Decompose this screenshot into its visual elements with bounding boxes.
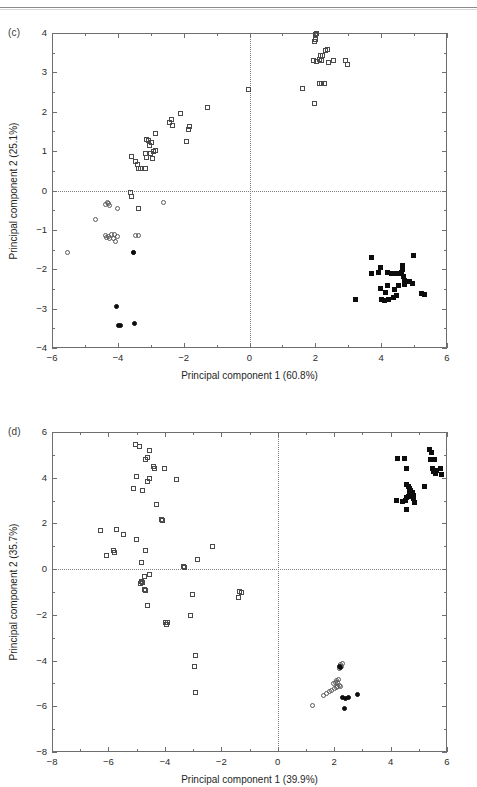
x-tick-major-top (381, 33, 382, 38)
y-tick-major-right (442, 661, 447, 662)
x-tick-major-top (108, 432, 109, 437)
y-tick-minor-right (444, 250, 447, 251)
y-tick-minor (52, 455, 55, 456)
data-point-open-square (236, 595, 241, 600)
data-point-open-square (129, 154, 134, 159)
data-point-open-square (193, 690, 198, 695)
y-tick-minor (52, 53, 55, 54)
data-point-filled-square (378, 265, 383, 270)
y-tick-major-right (442, 269, 447, 270)
y-tick-major-right (442, 33, 447, 34)
data-point-open-square (143, 457, 148, 462)
data-point-open-square (188, 613, 193, 618)
data-point-open-square (192, 664, 197, 669)
x-tick-major (250, 343, 251, 348)
x-tick-minor (419, 749, 420, 752)
data-point-open-square (147, 572, 152, 577)
x-tick-label: −4 (98, 352, 138, 363)
y-tick-label: −3 (16, 303, 47, 314)
data-point-open-square (239, 590, 244, 595)
data-point-filled-square (404, 507, 409, 512)
data-point-open-square (152, 466, 157, 471)
page-header-rule (0, 7, 477, 8)
x-tick-minor-top (306, 432, 307, 435)
data-point-filled-square (369, 255, 374, 260)
y-tick-major (52, 706, 57, 707)
y-tick-minor (52, 546, 55, 547)
data-point-open-circle (336, 677, 341, 682)
y-tick-major-right (442, 478, 447, 479)
y-tick-label: −8 (16, 746, 47, 757)
x-tick-label: −4 (145, 756, 185, 767)
data-point-open-square (190, 592, 195, 597)
y-tick-minor (52, 683, 55, 684)
y-tick-major-right (442, 432, 447, 433)
y-tick-minor (52, 328, 55, 329)
data-point-open-square (98, 528, 103, 533)
data-point-open-square (137, 444, 142, 449)
x-tick-major-top (447, 432, 448, 437)
data-point-filled-square (412, 500, 417, 505)
data-point-open-circle (115, 234, 120, 239)
y-tick-minor-right (444, 501, 447, 502)
x-tick-label: −2 (164, 352, 204, 363)
y-tick-label: 3 (16, 66, 47, 77)
y-tick-minor-right (444, 53, 447, 54)
y-tick-major-right (442, 309, 447, 310)
x-axis-title: Principal component 1 (60.8%) (52, 370, 447, 381)
data-point-open-square (143, 588, 148, 593)
data-point-open-square (144, 155, 149, 160)
x-tick-minor (414, 345, 415, 348)
x-tick-label: −8 (32, 756, 72, 767)
data-point-open-square (131, 486, 136, 491)
x-tick-minor (306, 749, 307, 752)
y-tick-minor-right (444, 729, 447, 730)
y-tick-major-right (442, 348, 447, 349)
data-point-filled-circle (342, 706, 347, 711)
data-point-filled-circle (346, 695, 351, 700)
x-tick-minor (80, 749, 81, 752)
y-tick-major-right (442, 752, 447, 753)
x-tick-minor (282, 345, 283, 348)
data-point-open-square (143, 548, 148, 553)
x-tick-minor-top (137, 432, 138, 435)
y-tick-major (52, 615, 57, 616)
x-tick-minor-top (217, 33, 218, 36)
data-point-open-square (134, 474, 139, 479)
data-point-open-square (314, 31, 319, 36)
x-tick-minor-top (419, 432, 420, 435)
data-point-open-square (144, 137, 149, 142)
y-tick-label: 0 (16, 563, 47, 574)
x-tick-minor (137, 749, 138, 752)
data-point-open-square (114, 527, 119, 532)
data-point-open-square (136, 206, 141, 211)
x-axis-title: Principal component 1 (39.9%) (52, 774, 447, 785)
data-point-open-square (142, 574, 147, 579)
x-tick-minor (348, 345, 349, 348)
data-point-open-square (160, 518, 165, 523)
y-tick-minor-right (444, 683, 447, 684)
x-tick-major (391, 747, 392, 752)
data-point-open-square (246, 87, 251, 92)
x-tick-minor-top (250, 432, 251, 435)
figure-panel-c: (c)−6−4−20246−4−3−2−101234Principal comp… (0, 14, 477, 394)
y-tick-minor (52, 131, 55, 132)
y-tick-minor-right (444, 546, 447, 547)
data-point-filled-square (396, 283, 401, 288)
y-tick-minor (52, 638, 55, 639)
page-header-rule-secondary (0, 9, 477, 10)
data-point-filled-square (383, 290, 388, 295)
data-point-open-circle (310, 703, 315, 708)
y-tick-major-right (442, 523, 447, 524)
data-point-open-square (143, 166, 148, 171)
y-tick-major (52, 309, 57, 310)
y-tick-label: −4 (16, 342, 47, 353)
x-tick-major (108, 747, 109, 752)
y-tick-major (52, 72, 57, 73)
y-tick-label: 4 (16, 27, 47, 38)
data-point-open-square (320, 53, 325, 58)
data-point-open-circle (115, 206, 120, 211)
x-tick-label: −6 (88, 756, 128, 767)
data-point-open-square (182, 565, 187, 570)
y-tick-label: −2 (16, 609, 47, 620)
